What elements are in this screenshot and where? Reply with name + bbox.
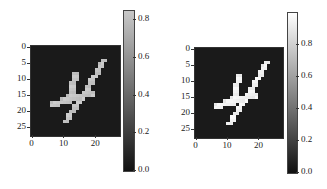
colorbar-tick-label: 0.6	[301, 71, 312, 80]
heatmap-image	[194, 47, 284, 139]
colorbar-tick-mark	[296, 140, 299, 141]
colorbar-tick-mark	[133, 95, 136, 96]
colorbar	[123, 10, 135, 172]
y-tick-label: 5	[16, 58, 26, 67]
colorbar-tick-label: 0.4	[138, 90, 149, 99]
y-tick-mark	[191, 97, 194, 98]
colorbar-tick-label: 0.0	[301, 167, 312, 176]
y-tick-mark	[191, 113, 194, 114]
colorbar-tick-mark	[296, 44, 299, 45]
y-tick-mark	[27, 47, 30, 48]
x-tick-label: 20	[87, 139, 103, 148]
colorbar-tick-mark	[296, 76, 299, 77]
y-tick-label: 10	[180, 76, 190, 85]
y-tick-label: 10	[16, 74, 26, 83]
colorbar-tick-label: 0.2	[301, 135, 312, 144]
colorbar	[287, 12, 298, 174]
y-tick-mark	[27, 127, 30, 128]
y-tick-mark	[191, 49, 194, 50]
y-tick-label: 15	[180, 92, 190, 101]
colorbar-tick-mark	[133, 132, 136, 133]
colorbar-tick-label: 0.2	[138, 127, 149, 136]
y-tick-label: 15	[16, 90, 26, 99]
x-tick-label: 0	[24, 139, 40, 148]
x-tick-label: 10	[219, 141, 235, 150]
y-tick-mark	[27, 63, 30, 64]
y-tick-label: 25	[16, 122, 26, 131]
y-tick-label: 20	[180, 108, 190, 117]
x-tick-label: 20	[250, 141, 266, 150]
heatmap-image	[30, 45, 121, 137]
y-tick-mark	[191, 65, 194, 66]
colorbar-tick-mark	[133, 19, 136, 20]
x-tick-label: 0	[188, 141, 204, 150]
y-tick-mark	[27, 79, 30, 80]
colorbar-tick-mark	[296, 172, 299, 173]
colorbar-tick-label: 0.0	[138, 165, 149, 174]
colorbar-tick-label: 0.8	[301, 39, 312, 48]
y-tick-mark	[27, 95, 30, 96]
colorbar-tick-label: 0.8	[138, 14, 149, 23]
y-tick-mark	[191, 81, 194, 82]
y-tick-label: 0	[16, 42, 26, 51]
x-tick-label: 10	[55, 139, 71, 148]
y-tick-mark	[191, 129, 194, 130]
y-tick-label: 20	[16, 106, 26, 115]
y-tick-label: 0	[180, 44, 190, 53]
y-tick-label: 25	[180, 124, 190, 133]
y-tick-label: 5	[180, 60, 190, 69]
colorbar-tick-mark	[133, 57, 136, 58]
colorbar-tick-label: 0.4	[301, 103, 312, 112]
colorbar-tick-mark	[133, 170, 136, 171]
colorbar-tick-label: 0.6	[138, 52, 149, 61]
colorbar-tick-mark	[296, 108, 299, 109]
y-tick-mark	[27, 111, 30, 112]
